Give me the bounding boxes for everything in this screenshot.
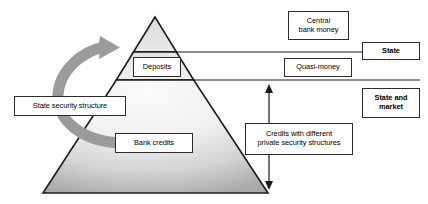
pyramid-tier-central-bank-money (134, 17, 177, 52)
label-state-and-market: State and market (362, 88, 420, 118)
label-quasi-money: Quasi-money (284, 58, 352, 77)
label-state-security-structure: State security structure (14, 96, 126, 116)
credits-range-arrow-head-down (265, 181, 273, 190)
label-credits-with-different-private-security-structures: Credits with different private security … (245, 123, 353, 155)
label-central-bank-money: Central bank money (288, 11, 349, 40)
label-state: State (362, 42, 420, 60)
label-bank-credits: Bank credits (115, 133, 193, 153)
money-pyramid-diagram: Central bank money State Quasi-money Sta… (0, 0, 428, 204)
label-deposits: Deposits (133, 57, 181, 77)
credits-range-arrow-head-up (265, 84, 273, 93)
